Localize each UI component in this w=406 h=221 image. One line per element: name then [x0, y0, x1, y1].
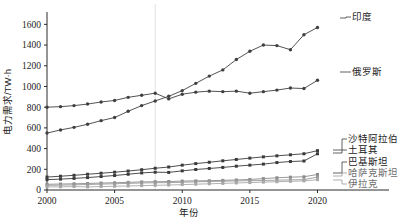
data-point	[248, 181, 251, 184]
data-point	[99, 119, 102, 122]
data-point	[140, 168, 143, 171]
data-point	[316, 173, 319, 176]
data-point	[59, 128, 62, 131]
data-point	[100, 175, 103, 178]
y-tick-label: 400	[27, 144, 42, 154]
data-point	[113, 174, 116, 177]
series-label-3: 土耳其	[348, 144, 378, 155]
x-tick-label: 2000	[38, 196, 57, 206]
y-tick-label: 1600	[22, 20, 41, 30]
data-point	[289, 153, 292, 156]
series-line	[47, 154, 317, 180]
data-point	[140, 94, 143, 97]
data-point	[140, 104, 143, 107]
data-point	[167, 171, 170, 174]
data-point	[181, 89, 184, 92]
data-point	[126, 110, 129, 113]
y-tick-label: 600	[27, 123, 42, 133]
data-point	[59, 105, 62, 108]
series-line	[47, 27, 317, 133]
data-point	[127, 170, 130, 173]
data-point	[302, 175, 305, 178]
y-tick-label: 0	[36, 185, 41, 195]
data-point	[154, 171, 157, 174]
data-point	[167, 166, 170, 169]
data-point	[127, 182, 130, 185]
data-point	[194, 162, 197, 165]
leader-line-6	[333, 180, 347, 184]
data-point	[221, 182, 224, 185]
chart-container: 0200400600800100012001400160020002005201…	[0, 0, 406, 221]
data-point	[275, 44, 278, 47]
data-point	[208, 161, 211, 164]
data-point	[248, 50, 251, 53]
data-point	[262, 43, 265, 46]
data-point	[248, 157, 251, 160]
data-point	[221, 159, 224, 162]
series-label-5: 哈萨克斯坦	[348, 167, 398, 178]
y-tick-label: 200	[27, 165, 42, 175]
data-point	[248, 164, 251, 167]
x-tick-label: 2010	[173, 196, 192, 206]
data-point	[45, 105, 48, 108]
data-point	[46, 176, 49, 179]
data-point	[235, 58, 238, 61]
data-point	[262, 155, 265, 158]
data-point	[289, 180, 292, 183]
data-point	[45, 131, 48, 134]
leader-line-4	[333, 162, 347, 173]
data-point	[153, 99, 156, 102]
data-point	[208, 74, 211, 77]
data-point	[208, 167, 211, 170]
series-label-1: 俄罗斯	[352, 66, 382, 77]
data-point	[275, 88, 278, 91]
data-point	[167, 184, 170, 187]
data-point	[316, 152, 319, 155]
x-tick-label: 2020	[308, 196, 327, 206]
data-point	[113, 116, 116, 119]
data-point	[140, 184, 143, 187]
data-point	[302, 152, 305, 155]
data-point	[127, 173, 130, 176]
data-point	[86, 176, 89, 179]
series-1	[45, 79, 319, 109]
data-point	[46, 178, 49, 181]
data-point	[86, 173, 89, 176]
data-point	[140, 171, 143, 174]
data-point	[100, 172, 103, 175]
leader-line-0	[340, 17, 351, 18]
data-point	[208, 89, 211, 92]
data-point	[153, 92, 156, 95]
data-point	[262, 90, 265, 93]
data-point	[194, 168, 197, 171]
data-point	[113, 171, 116, 174]
data-point	[73, 185, 76, 188]
leader-line-2	[333, 139, 347, 150]
data-point	[59, 175, 62, 178]
data-point	[302, 87, 305, 90]
data-point	[235, 181, 238, 184]
data-point	[86, 102, 89, 105]
x-tick-label: 2015	[240, 196, 259, 206]
data-point	[194, 82, 197, 85]
data-point	[289, 86, 292, 89]
data-point	[208, 182, 211, 185]
data-point	[127, 184, 130, 187]
data-point	[140, 181, 143, 184]
data-point	[316, 176, 319, 179]
data-point	[302, 33, 305, 36]
data-point	[86, 123, 89, 126]
line-chart: 0200400600800100012001400160020002005201…	[0, 0, 406, 221]
series-0	[45, 26, 319, 135]
series-label-0: 印度	[352, 11, 372, 22]
data-point	[302, 179, 305, 182]
data-point	[275, 161, 278, 164]
data-point	[262, 163, 265, 166]
x-axis-title: 年份	[179, 207, 199, 218]
data-point	[235, 165, 238, 168]
data-point	[248, 92, 251, 95]
data-point	[235, 89, 238, 92]
data-point	[289, 48, 292, 51]
data-point	[181, 183, 184, 186]
data-point	[72, 126, 75, 129]
